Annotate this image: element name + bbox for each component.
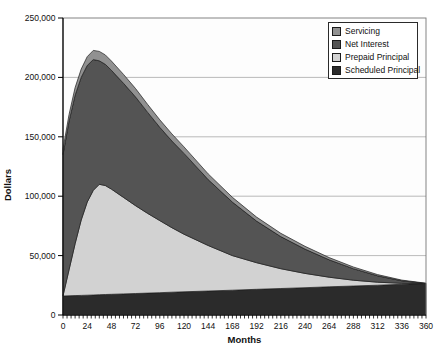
y-tick-label: 50,000 — [30, 251, 56, 261]
y-tick-label: 150,000 — [25, 132, 56, 142]
x-tick-label: 264 — [322, 321, 336, 331]
legend-label: Prepaid Principal — [345, 53, 409, 62]
legend-swatch-icon — [332, 66, 341, 75]
x-tick-label: 240 — [298, 321, 312, 331]
legend-swatch-icon — [332, 53, 341, 62]
x-tick-label: 120 — [177, 321, 191, 331]
x-tick-label: 168 — [225, 321, 239, 331]
y-tick-label: 100,000 — [25, 191, 56, 201]
legend: ServicingNet InterestPrepaid PrincipalSc… — [328, 22, 418, 79]
x-tick-label: 24 — [82, 321, 92, 331]
x-tick-label: 360 — [419, 321, 433, 331]
y-tick-label: 200,000 — [25, 72, 56, 82]
legend-label: Servicing — [345, 27, 380, 36]
legend-item-servicing: Servicing — [332, 25, 414, 37]
x-tick-label: 216 — [274, 321, 288, 331]
legend-item-prepaid-principal: Prepaid Principal — [332, 51, 414, 63]
y-tick-label: 0 — [51, 310, 56, 320]
legend-item-net-interest: Net Interest — [332, 38, 414, 50]
x-tick-label: 0 — [61, 321, 66, 331]
legend-label: Net Interest — [345, 40, 389, 49]
x-tick-label: 96 — [155, 321, 165, 331]
chart: 050,000100,000150,000200,000250,00002448… — [0, 0, 441, 359]
x-tick-label: 48 — [107, 321, 117, 331]
legend-label: Scheduled Principal — [345, 66, 420, 75]
legend-item-scheduled-principal: Scheduled Principal — [332, 64, 414, 76]
x-tick-label: 312 — [371, 321, 385, 331]
y-axis-title: Dollars — [2, 150, 14, 220]
x-tick-label: 288 — [346, 321, 360, 331]
legend-swatch-icon — [332, 27, 341, 36]
x-tick-label: 192 — [250, 321, 264, 331]
x-tick-label: 336 — [395, 321, 409, 331]
y-tick-label: 250,000 — [25, 13, 56, 23]
legend-swatch-icon — [332, 40, 341, 49]
x-tick-label: 72 — [131, 321, 141, 331]
x-axis-title: Months — [209, 334, 280, 346]
x-tick-label: 144 — [201, 321, 215, 331]
